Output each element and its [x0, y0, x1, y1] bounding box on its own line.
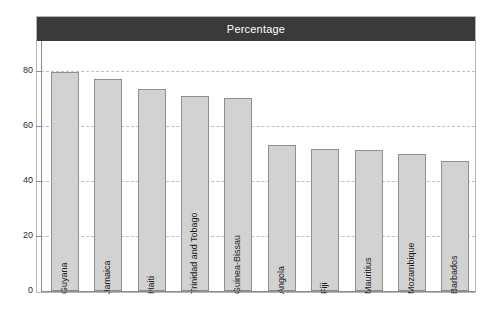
y-axis-label: 40: [23, 176, 33, 185]
x-axis-line: [41, 291, 475, 292]
chart-title: Percentage: [227, 24, 285, 35]
gridline-80: [41, 71, 475, 72]
bar[interactable]: [94, 79, 122, 291]
y-axis-label: 60: [23, 121, 33, 130]
bar-label: Angola: [277, 266, 286, 294]
bar-label: Trinidad and Tobago: [190, 212, 199, 294]
y-axis-line: [41, 41, 42, 292]
y-axis-label: 20: [23, 231, 33, 240]
bar-label: Jamaica: [103, 260, 112, 294]
bar-label: Guyana: [60, 262, 69, 294]
bar-chart: Percentage 020406080 GuyanaJamaicaHaitiT…: [0, 0, 494, 311]
y-axis-label: 0: [28, 286, 33, 295]
chart-title-bar: Percentage: [37, 17, 475, 41]
y-axis-label: 80: [23, 66, 33, 75]
bar-label: Guinea-Bissau: [233, 235, 242, 294]
bar[interactable]: [51, 72, 79, 291]
bar[interactable]: [311, 149, 339, 291]
bar-label: Barbados: [450, 255, 459, 294]
bar-label: Mozambique: [407, 242, 416, 294]
bar-label: Fiji: [320, 283, 329, 295]
bar[interactable]: [138, 89, 166, 291]
bar-label: Mauritius: [364, 257, 373, 294]
